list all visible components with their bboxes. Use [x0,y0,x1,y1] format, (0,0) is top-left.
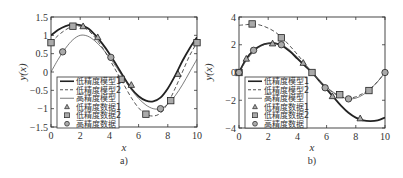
circle-marker [236,69,242,75]
legend-entry: 低精度数据2 [76,110,121,120]
y-tick-label: −1.5 [30,122,48,133]
x-tick-label: 8 [165,130,170,141]
y-tick-label: 0 [231,67,236,78]
square-marker [309,69,315,75]
legend-entry: 低精度模型1 [264,76,309,86]
legend-square-icon [253,113,258,118]
circle-marker [278,42,284,48]
x-tick-label: 2 [78,130,83,141]
x-tick-label: 8 [353,131,358,142]
square-marker [48,39,54,45]
y-tick-label: −0.5 [30,85,48,96]
circle-marker [345,96,351,102]
x-axis-label: x [309,141,315,153]
square-marker [70,23,76,29]
legend-entry: 低精度模型1 [76,76,121,86]
figure: 02468101.510.50−0.5−1−1.5xy(x)a)低精度模型1低精… [0,0,403,178]
legend-square-icon [65,113,70,118]
square-marker [337,92,343,98]
y-tick-label: 1.5 [36,12,49,23]
chart-panel-a: 02468101.510.50−0.5−1−1.5xy(x)a)低精度模型1低精… [16,12,202,168]
x-axis-label: x [121,141,127,153]
panel-caption: b) [308,155,316,167]
y-tick-label: −2 [225,95,236,106]
legend-entry: 高精度数据 [76,119,116,129]
legend-entry: 低精度模型2 [76,85,121,95]
legend-entry: 低精度数据1 [76,102,121,112]
x-tick-label: 6 [324,131,329,142]
legend-entry: 高精度数据 [264,119,304,129]
x-tick-label: 2 [266,131,271,142]
y-axis-label: y(x) [16,63,29,81]
square-marker [194,39,200,45]
legend: 低精度模型1低精度模型2高精度模型低精度数据1低精度数据2高精度数据 [245,76,309,129]
x-tick-label: 4 [107,130,112,141]
legend-entry: 低精度数据1 [264,102,309,112]
y-tick-label: −4 [225,123,236,134]
x-tick-label: 0 [49,130,54,141]
square-marker [143,111,149,117]
y-tick-label: 2 [231,39,236,50]
legend-entry: 高精度模型 [76,93,116,103]
circle-marker [382,69,388,75]
y-axis-label: y(x) [202,63,215,81]
circle-marker [157,105,163,111]
square-marker [168,97,174,103]
y-tick-label: 4 [231,12,236,23]
x-tick-label: 0 [237,131,242,142]
y-tick-label: 0.5 [36,48,49,59]
panel-caption: a) [120,155,128,167]
x-tick-label: 4 [295,131,300,142]
square-marker [366,87,372,93]
legend-entry: 低精度模型2 [264,85,309,95]
square-marker [278,35,284,41]
legend: 低精度模型1低精度模型2高精度模型低精度数据1低精度数据2高精度数据 [57,76,121,129]
circle-marker [59,49,65,55]
x-tick-label: 6 [136,130,141,141]
legend-entry: 低精度数据2 [264,110,309,120]
circle-marker [108,54,114,60]
x-tick-label: 10 [380,131,390,142]
square-marker [249,21,255,27]
y-tick-label: −1 [37,103,48,114]
y-tick-label: 0 [43,67,48,78]
y-tick-label: 1 [43,30,48,41]
circle-marker [250,47,256,53]
x-tick-label: 10 [192,130,202,141]
chart-panel-b: 0246810420−2−4xy(x)b)低精度模型1低精度模型2高精度模型低精… [202,12,390,168]
legend-circle-icon [65,121,70,126]
legend-circle-icon [253,121,258,126]
legend-entry: 高精度模型 [264,93,304,103]
circle-marker [322,85,328,91]
